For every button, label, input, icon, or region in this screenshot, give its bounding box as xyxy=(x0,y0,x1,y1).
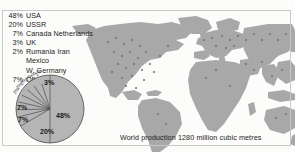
legend-item: 3% UK xyxy=(5,38,125,47)
legend-label: Mexico xyxy=(26,56,125,65)
legend-item: 48% USA xyxy=(5,11,125,20)
pie-slice-label-others: 7% xyxy=(18,116,28,123)
legend-label: Rumania Iran xyxy=(26,47,125,56)
legend-item: 20% USSR xyxy=(5,20,125,29)
legend-percent: 20% xyxy=(5,20,23,29)
figure-world-gas-production: 48% USA 20% USSR 7% Canada Netherlands 3… xyxy=(0,0,295,152)
legend-percent: 7% xyxy=(5,29,23,38)
legend-percent xyxy=(5,56,23,65)
legend-label: Canada Netherlands xyxy=(26,29,125,38)
legend-label: USSR xyxy=(26,20,125,29)
pie-slice-label-usa: 48% xyxy=(56,112,70,119)
chart-caption: World production 1280 million cubic metr… xyxy=(120,133,262,142)
legend-label: USA xyxy=(26,11,125,20)
legend-percent: 48% xyxy=(5,11,23,20)
pie-chart: 48% 20% 7% 7% 3% 2% 2% 2% 2% 2% 2% xyxy=(14,73,86,145)
legend-percent: 2% xyxy=(5,47,23,56)
pie-slice-label-ussr: 20% xyxy=(40,128,54,135)
legend-percent: 3% xyxy=(5,38,23,47)
pie-slice-label-uk: 3% xyxy=(44,79,54,86)
legend-item: 2% Rumania Iran xyxy=(5,47,125,56)
pie-slice-label-canada-netherlands: 7% xyxy=(17,104,27,111)
legend-label: UK xyxy=(26,38,125,47)
legend-item: Mexico xyxy=(5,56,125,65)
legend-item: 7% Canada Netherlands xyxy=(5,29,125,38)
